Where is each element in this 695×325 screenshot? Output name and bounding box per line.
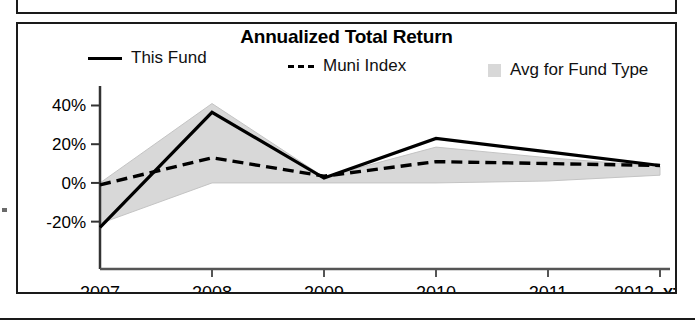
y-axis-tick-label: 40% — [52, 96, 86, 115]
page-speck — [2, 208, 7, 212]
y-axis-tick-label: 0% — [61, 174, 86, 193]
x-axis-tick-label: 2007 — [80, 283, 120, 292]
chart-title: Annualized Total Return — [18, 26, 675, 48]
legend-item-muni-index: Muni Index — [288, 56, 406, 76]
x-axis-tick-label: 2011 — [529, 283, 568, 292]
dashed-line-swatch-icon — [288, 65, 314, 68]
x-axis-unit-label-ytd: YTD — [663, 284, 675, 292]
shaded-area-swatch-icon — [488, 64, 501, 77]
page-bottom-rule — [0, 318, 695, 320]
chart-plot-svg: -20%0%20%40%200720082009201020112012YTD — [18, 76, 675, 292]
annualized-total-return-chart-panel: Annualized Total Return This Fund Muni I… — [16, 22, 677, 294]
legend-label-this-fund: This Fund — [131, 48, 207, 68]
x-axis-tick-label: 2012 — [614, 283, 654, 292]
y-axis-tick-label: -20% — [46, 213, 86, 232]
partial-panel-above — [16, 0, 677, 14]
y-axis-tick-label: 20% — [52, 135, 86, 154]
legend-item-this-fund: This Fund — [88, 48, 207, 68]
x-axis-tick-label: 2008 — [192, 283, 232, 292]
x-axis-tick-label: 2010 — [416, 283, 456, 292]
plot-area: -20%0%20%40%200720082009201020112012YTD — [18, 76, 675, 292]
solid-line-swatch-icon — [88, 57, 122, 60]
chart-legend: This Fund Muni Index Avg for Fund Type — [18, 48, 675, 74]
legend-label-muni-index: Muni Index — [323, 56, 406, 76]
x-axis-tick-label: 2009 — [304, 283, 344, 292]
